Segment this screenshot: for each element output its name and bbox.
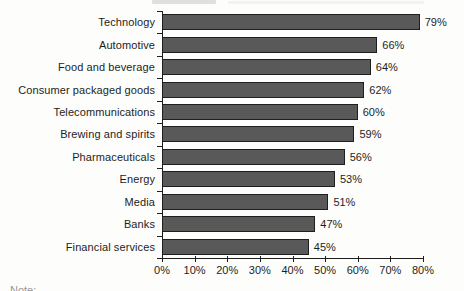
y-axis-tick — [157, 191, 163, 192]
x-axis-tick — [358, 256, 359, 262]
value-label: 47% — [320, 218, 342, 230]
bar[interactable] — [162, 239, 309, 255]
bar-track: 47% — [162, 213, 464, 235]
bar-track: 53% — [162, 168, 464, 190]
y-axis-tick — [157, 168, 163, 169]
bar-row: Technology 79% — [0, 11, 464, 33]
y-axis-tick — [157, 213, 163, 214]
category-label: Technology — [0, 16, 162, 28]
y-axis-tick — [157, 78, 163, 79]
bar-row: Brewing and spirits 59% — [0, 123, 464, 145]
bar[interactable] — [162, 104, 358, 120]
bar[interactable] — [162, 194, 328, 210]
category-label: Financial services — [0, 241, 162, 253]
y-axis-tick — [157, 33, 163, 34]
category-label: Brewing and spirits — [0, 128, 162, 140]
value-label: 59% — [359, 128, 381, 140]
plot-area: Technology 79% Automotive 66% Food and b… — [0, 11, 464, 258]
x-axis-tick — [325, 256, 326, 262]
bar-track: 62% — [162, 78, 464, 100]
bar-row: Consumer packaged goods 62% — [0, 78, 464, 100]
value-label: 56% — [350, 151, 372, 163]
y-axis-tick — [157, 56, 163, 57]
bar-track: 60% — [162, 101, 464, 123]
x-axis-tick-label: 70% — [379, 264, 401, 276]
bar-track: 59% — [162, 123, 464, 145]
category-label: Pharmaceuticals — [0, 151, 162, 163]
x-axis-tick-label: 40% — [281, 264, 303, 276]
value-label: 66% — [382, 39, 404, 51]
bar[interactable] — [162, 37, 377, 53]
value-label: 53% — [340, 173, 362, 185]
x-axis-tick-label: 50% — [314, 264, 336, 276]
category-label: Media — [0, 196, 162, 208]
bar-row: Media 51% — [0, 191, 464, 213]
bar[interactable] — [162, 14, 420, 30]
x-axis-tick — [260, 256, 261, 262]
cropped-text-remnant-top-right — [228, 1, 424, 4]
value-label: 51% — [333, 196, 355, 208]
value-label: 79% — [425, 16, 447, 28]
bar-row: Energy 53% — [0, 168, 464, 190]
bar-rows: Technology 79% Automotive 66% Food and b… — [0, 11, 464, 258]
bar[interactable] — [162, 82, 364, 98]
x-axis-tick-label: 60% — [347, 264, 369, 276]
category-label: Telecommunications — [0, 106, 162, 118]
y-axis-tick — [157, 123, 163, 124]
category-label: Banks — [0, 218, 162, 230]
value-label: 62% — [369, 84, 391, 96]
bar-track: 45% — [162, 236, 464, 258]
x-axis-tick-label: 80% — [412, 264, 434, 276]
x-axis-tick — [423, 256, 424, 262]
value-label: 60% — [363, 106, 385, 118]
y-axis-tick — [157, 101, 163, 102]
bar[interactable] — [162, 59, 371, 75]
x-axis-tick-label: 30% — [249, 264, 271, 276]
y-axis-tick — [157, 258, 163, 259]
y-axis-tick — [157, 146, 163, 147]
bar-row: Banks 47% — [0, 213, 464, 235]
category-label: Consumer packaged goods — [0, 84, 162, 96]
bar-track: 64% — [162, 56, 464, 78]
x-axis-tick — [293, 256, 294, 262]
cropped-text-remnant-top — [152, 0, 216, 4]
bar-track: 79% — [162, 11, 464, 33]
bar[interactable] — [162, 171, 335, 187]
bar-row: Food and beverage 64% — [0, 56, 464, 78]
bar-row: Telecommunications 60% — [0, 101, 464, 123]
x-axis-tick — [227, 256, 228, 262]
bar[interactable] — [162, 216, 315, 232]
category-label: Automotive — [0, 39, 162, 51]
y-axis-tick — [157, 11, 163, 12]
bar-track: 51% — [162, 191, 464, 213]
bar[interactable] — [162, 149, 345, 165]
x-axis-tick-label: 10% — [184, 264, 206, 276]
x-axis-tick — [195, 256, 196, 262]
bar-row: Financial services 45% — [0, 236, 464, 258]
value-label: 64% — [376, 61, 398, 73]
footnote-fragment: Note: — [10, 285, 310, 291]
bar-row: Pharmaceuticals 56% — [0, 146, 464, 168]
category-label: Food and beverage — [0, 61, 162, 73]
bar-chart-figure: Technology 79% Automotive 66% Food and b… — [0, 0, 464, 291]
bar-row: Automotive 66% — [0, 33, 464, 55]
bar-track: 66% — [162, 33, 464, 55]
value-label: 45% — [314, 241, 336, 253]
category-label: Energy — [0, 173, 162, 185]
y-axis-tick — [157, 236, 163, 237]
x-axis-tick-label: 0% — [154, 264, 170, 276]
x-axis-tick — [390, 256, 391, 262]
y-axis-line — [162, 11, 163, 259]
x-axis-tick — [162, 256, 163, 262]
x-axis-tick-label: 20% — [216, 264, 238, 276]
bar[interactable] — [162, 126, 354, 142]
bar-track: 56% — [162, 146, 464, 168]
